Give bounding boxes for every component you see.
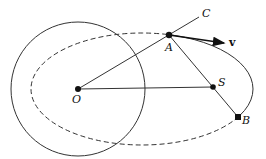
point-o	[75, 86, 81, 92]
ellipse-orbit-dashed	[31, 33, 253, 145]
label-a: A	[164, 41, 173, 54]
point-b	[235, 114, 241, 120]
point-s	[210, 84, 216, 90]
line-o-to-s	[78, 87, 213, 89]
point-a	[166, 32, 172, 38]
label-o: O	[72, 93, 81, 106]
ellipse-orbit-solid	[31, 33, 253, 145]
label-c: C	[202, 7, 211, 20]
label-v: v	[228, 36, 236, 49]
label-b: B	[241, 114, 250, 127]
line-a-to-b	[169, 35, 238, 117]
label-s: S	[218, 76, 226, 89]
velocity-vector	[169, 35, 224, 43]
line-o-to-c	[78, 17, 199, 89]
orbit-diagram: O A C S B v	[0, 0, 266, 159]
